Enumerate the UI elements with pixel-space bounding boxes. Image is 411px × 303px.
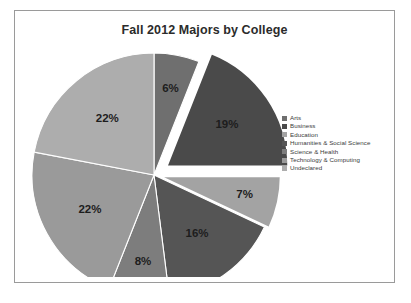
pie-slice-group — [32, 53, 288, 277]
legend-swatch-icon — [282, 141, 287, 146]
pie-value-label: 6% — [162, 82, 179, 94]
pie-value-label: 22% — [78, 203, 101, 215]
pie-value-label: 22% — [96, 112, 119, 124]
legend-swatch-icon — [282, 116, 287, 121]
legend-item[interactable]: Humanities & Social Science — [282, 140, 390, 146]
legend: ArtsBusinessEducationHumanities & Social… — [282, 115, 390, 172]
pie-value-label: 16% — [185, 227, 208, 239]
chart-frame: Fall 2012 Majors by College 6%19%7%16%8%… — [14, 10, 395, 283]
pie-value-label: 19% — [215, 118, 238, 130]
legend-item[interactable]: Technology & Computing — [282, 157, 390, 163]
legend-item[interactable]: Business — [282, 123, 390, 129]
legend-item-label: Technology & Computing — [290, 157, 360, 163]
pie-svg: 6%19%7%16%8%22%22% — [21, 37, 311, 277]
legend-item-label: Business — [290, 123, 316, 129]
legend-item-label: Undeclared — [290, 165, 322, 171]
legend-item-label: Arts — [290, 115, 301, 121]
chart-title: Fall 2012 Majors by College — [15, 23, 394, 37]
pie-value-label: 7% — [236, 188, 253, 200]
legend-item-label: Education — [290, 132, 318, 138]
legend-item[interactable]: Arts — [282, 115, 390, 121]
legend-swatch-icon — [282, 166, 287, 171]
pie-chart: 6%19%7%16%8%22%22% — [21, 37, 311, 277]
pie-value-label: 8% — [135, 255, 152, 267]
legend-item[interactable]: Education — [282, 132, 390, 138]
legend-swatch-icon — [282, 124, 287, 129]
legend-item-label: Science & Health — [290, 149, 338, 155]
legend-item[interactable]: Science & Health — [282, 149, 390, 155]
legend-swatch-icon — [282, 132, 287, 137]
legend-item[interactable]: Undeclared — [282, 165, 390, 171]
legend-item-label: Humanities & Social Science — [290, 140, 370, 146]
legend-swatch-icon — [282, 158, 287, 163]
legend-swatch-icon — [282, 149, 287, 154]
